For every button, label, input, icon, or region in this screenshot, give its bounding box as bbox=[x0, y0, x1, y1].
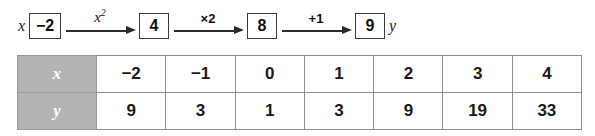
operation-label-3: +1 bbox=[309, 12, 324, 25]
arrow-head-2 bbox=[234, 26, 244, 34]
arrow-head-3 bbox=[342, 26, 352, 34]
function-machine-diagram: x −2 x2 4 ×2 8 +1 9 y bbox=[14, 6, 400, 46]
row-header-y: y bbox=[18, 93, 97, 130]
cell-y-2: 1 bbox=[235, 93, 304, 130]
operation-label-1-exponent: 2 bbox=[101, 8, 106, 18]
cell-x-5: 3 bbox=[443, 56, 512, 93]
row-header-x: x bbox=[18, 56, 97, 93]
operation-arrow-3: +1 bbox=[280, 13, 352, 39]
cell-y-0: 9 bbox=[97, 93, 166, 130]
value-box-2: 4 bbox=[139, 13, 169, 39]
cell-y-4: 9 bbox=[374, 93, 443, 130]
arrow-line-3 bbox=[282, 30, 343, 32]
operation-label-1: x2 bbox=[94, 10, 105, 25]
cell-x-3: 1 bbox=[304, 56, 373, 93]
input-variable-label: x bbox=[14, 18, 29, 34]
cell-y-3: 3 bbox=[304, 93, 373, 130]
xy-value-table: x −2 −1 0 1 2 3 4 y 9 3 1 3 9 19 33 bbox=[17, 55, 582, 130]
value-box-3: 8 bbox=[247, 13, 277, 39]
table-row-y: y 9 3 1 3 9 19 33 bbox=[18, 93, 582, 130]
cell-x-6: 4 bbox=[512, 56, 581, 93]
output-variable-label: y bbox=[385, 18, 400, 34]
cell-y-6: 33 bbox=[512, 93, 581, 130]
arrow-line-2 bbox=[174, 30, 235, 32]
cell-x-1: −1 bbox=[166, 56, 235, 93]
cell-x-2: 0 bbox=[235, 56, 304, 93]
cell-x-4: 2 bbox=[374, 56, 443, 93]
operation-arrow-2: ×2 bbox=[172, 13, 244, 39]
cell-y-5: 19 bbox=[443, 93, 512, 130]
operation-label-2: ×2 bbox=[201, 12, 216, 25]
cell-y-1: 3 bbox=[166, 93, 235, 130]
value-box-4: 9 bbox=[355, 13, 385, 39]
arrow-head-1 bbox=[126, 26, 136, 34]
operation-arrow-1: x2 bbox=[64, 13, 136, 39]
arrow-line-1 bbox=[66, 30, 127, 32]
table-row-x: x −2 −1 0 1 2 3 4 bbox=[18, 56, 582, 93]
cell-x-0: −2 bbox=[97, 56, 166, 93]
operation-label-1-base: x bbox=[94, 9, 101, 25]
value-box-1: −2 bbox=[29, 13, 61, 39]
